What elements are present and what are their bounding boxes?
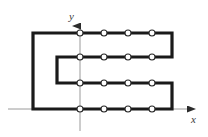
current-marker: [101, 30, 107, 36]
x-axis-label: x: [191, 114, 196, 125]
current-marker: [101, 80, 107, 86]
current-marker: [125, 54, 131, 60]
current-marker: [125, 106, 131, 112]
current-marker: [125, 30, 131, 36]
coordinate-diagram-svg: [0, 0, 208, 137]
conductor-path: [33, 33, 172, 109]
current-marker: [149, 80, 155, 86]
current-marker-group: [77, 30, 155, 112]
current-marker: [149, 54, 155, 60]
current-marker: [77, 80, 83, 86]
current-marker: [77, 54, 83, 60]
current-marker: [149, 30, 155, 36]
conductor-group: [33, 33, 172, 109]
current-marker: [77, 30, 83, 36]
y-axis-label: y: [69, 11, 74, 22]
diagram-canvas: y x: [0, 0, 208, 137]
current-marker: [77, 106, 83, 112]
current-marker: [149, 106, 155, 112]
current-marker: [101, 54, 107, 60]
current-marker: [101, 106, 107, 112]
current-marker: [125, 80, 131, 86]
